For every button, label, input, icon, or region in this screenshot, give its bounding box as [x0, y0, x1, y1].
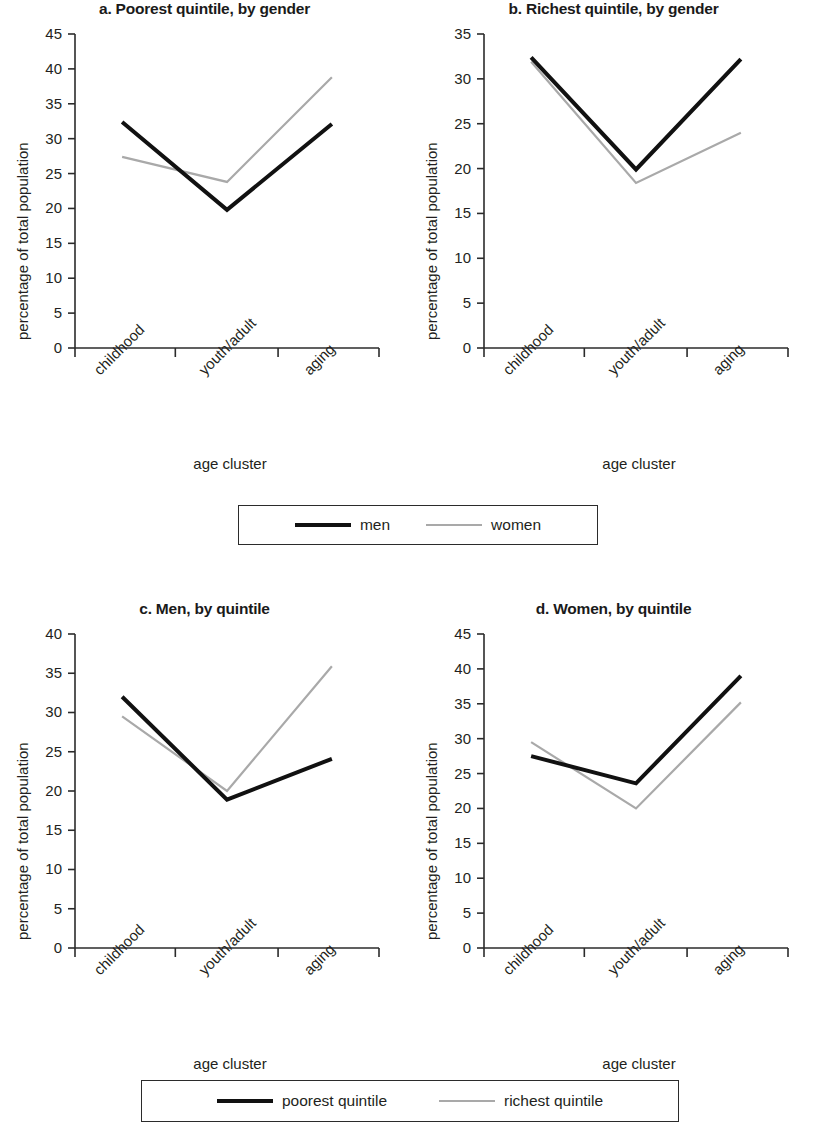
legend-item-richest-quintile: richest quintile: [439, 1092, 603, 1110]
x-category-label: youth/adult: [195, 314, 260, 379]
x-category-label: aging: [300, 340, 338, 378]
series-line-women: [531, 62, 741, 183]
y-tick-label: 35: [45, 95, 62, 112]
y-tick-label: 30: [454, 730, 471, 747]
y-tick-label: 20: [454, 160, 471, 177]
y-tick-label: 35: [454, 25, 471, 42]
y-tick-label: 25: [454, 115, 471, 132]
y-tick-label: 25: [45, 165, 62, 182]
y-tick-label: 30: [454, 70, 471, 87]
series-line-women: [122, 77, 332, 182]
legend-label-poorest-quintile: poorest quintile: [282, 1092, 387, 1110]
y-tick-label: 20: [45, 782, 62, 799]
legend-item-women: women: [426, 516, 541, 534]
series-line-richest-quintile: [531, 702, 741, 808]
y-tick-label: 45: [454, 625, 471, 642]
line-swatch-icon-poorest: [217, 1099, 273, 1103]
panel-b: b. Richest quintile, by gender percentag…: [409, 0, 818, 500]
y-tick-label: 15: [454, 204, 471, 221]
panel-a: a. Poorest quintile, by gender percentag…: [0, 0, 409, 500]
line-swatch-icon-men: [295, 523, 351, 527]
series-line-men: [122, 122, 332, 210]
y-tick-label: 10: [45, 860, 62, 877]
line-swatch-icon-richest: [439, 1100, 495, 1102]
y-tick-label: 5: [54, 900, 62, 917]
y-tick-label: 5: [463, 294, 471, 311]
panel-a-x-axis-label: age cluster: [140, 455, 320, 472]
y-tick-label: 5: [54, 304, 62, 321]
y-tick-label: 15: [45, 234, 62, 251]
y-tick-label: 15: [454, 834, 471, 851]
panel-b-x-axis-label: age cluster: [549, 455, 729, 472]
panel-d-plot: 051015202530354045childhoodyouth/adultag…: [409, 600, 818, 1100]
y-tick-label: 15: [45, 821, 62, 838]
y-tick-label: 30: [45, 130, 62, 147]
y-tick-label: 45: [45, 25, 62, 42]
x-category-label: aging: [709, 340, 747, 378]
legend-item-men: men: [295, 516, 390, 534]
legend-label-richest-quintile: richest quintile: [504, 1092, 603, 1110]
y-tick-label: 0: [54, 339, 62, 356]
y-tick-label: 0: [463, 939, 471, 956]
y-tick-label: 35: [454, 695, 471, 712]
y-tick-label: 40: [45, 625, 62, 642]
y-tick-label: 10: [45, 269, 62, 286]
y-tick-label: 35: [45, 664, 62, 681]
y-tick-label: 25: [45, 743, 62, 760]
x-category-label: aging: [709, 940, 747, 978]
y-tick-label: 5: [463, 904, 471, 921]
quintile-legend: poorest quintile richest quintile: [141, 1080, 679, 1122]
y-tick-label: 40: [454, 660, 471, 677]
gender-legend: men women: [238, 505, 598, 545]
y-tick-label: 20: [454, 799, 471, 816]
x-category-label: childhood: [499, 921, 556, 978]
panel-c-plot: 0510152025303540childhoodyouth/adultagin…: [0, 600, 409, 1100]
x-category-label: childhood: [90, 921, 147, 978]
x-category-label: aging: [300, 940, 338, 978]
y-tick-label: 0: [54, 939, 62, 956]
y-tick-label: 10: [454, 869, 471, 886]
y-tick-label: 30: [45, 703, 62, 720]
legend-label-men: men: [360, 516, 390, 534]
legend-label-women: women: [491, 516, 541, 534]
x-category-label: childhood: [90, 321, 147, 378]
y-tick-label: 25: [454, 765, 471, 782]
x-category-label: youth/adult: [604, 914, 669, 979]
series-line-poorest-quintile: [122, 697, 332, 800]
panel-c: c. Men, by quintile percentage of total …: [0, 600, 409, 1100]
panel-b-plot: 05101520253035childhoodyouth/adultaging: [409, 0, 818, 500]
figure-root: a. Poorest quintile, by gender percentag…: [0, 0, 818, 1130]
panel-c-x-axis-label: age cluster: [140, 1055, 320, 1072]
x-category-label: youth/adult: [195, 914, 260, 979]
legend-item-poorest-quintile: poorest quintile: [217, 1092, 387, 1110]
panel-a-plot: 051015202530354045childhoodyouth/adultag…: [0, 0, 409, 500]
x-category-label: childhood: [499, 321, 556, 378]
line-swatch-icon-women: [426, 524, 482, 526]
x-category-label: youth/adult: [604, 314, 669, 379]
series-line-poorest-quintile: [531, 676, 741, 783]
y-tick-label: 40: [45, 60, 62, 77]
y-tick-label: 0: [463, 339, 471, 356]
panel-d-x-axis-label: age cluster: [549, 1055, 729, 1072]
series-line-men: [531, 57, 741, 169]
y-tick-label: 10: [454, 249, 471, 266]
y-tick-label: 20: [45, 199, 62, 216]
panel-d: d. Women, by quintile percentage of tota…: [409, 600, 818, 1100]
